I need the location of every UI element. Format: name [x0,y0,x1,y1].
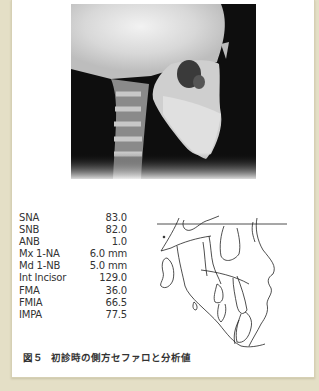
cephalometric-tracing [149,206,299,351]
measurement-label: FMIA [19,297,42,309]
measurement-label: SNA [19,212,39,224]
cephalometric-xray-image [71,4,256,179]
measurement-label: Mx 1-NA [19,248,60,260]
measurement-row-fmia: FMIA 66.5 [19,297,127,309]
measurement-value: 66.5 [106,297,127,309]
measurement-row-mx1-na: Mx 1-NA 6.0 mm [19,248,127,260]
measurement-row-fma: FMA 36.0 [19,285,127,297]
figure-caption: 図５初診時の側方セファロと分析値 [23,350,191,364]
measurement-value: 82.0 [106,224,127,236]
measurement-table: SNA 83.0 SNB 82.0 ANB 1.0 Mx 1-NA 6.0 mm… [19,212,127,321]
measurement-value: 5.0 mm [90,260,127,272]
measurement-row-impa: IMPA 77.5 [19,309,127,321]
measurement-label: Int Incisor [19,272,66,284]
measurement-label: IMPA [19,309,42,321]
figure-number: 図５ [23,352,43,363]
figure-caption-text: 初診時の側方セファロと分析値 [51,352,191,363]
measurement-label: FMA [19,285,40,297]
measurement-row-md1-nb: Md 1-NB 5.0 mm [19,260,127,272]
measurement-row-snb: SNB 82.0 [19,224,127,236]
measurement-value: 1.0 [112,236,127,248]
measurement-value: 83.0 [106,212,127,224]
measurement-value: 129.0 [99,272,127,284]
measurement-label: Md 1-NB [19,260,60,272]
measurement-value: 77.5 [106,309,127,321]
measurement-row-int-incisor: Int Incisor 129.0 [19,272,127,284]
measurement-label: SNB [19,224,39,236]
measurement-label: ANB [19,236,40,248]
measurement-value: 6.0 mm [90,248,127,260]
figure-card: SNA 83.0 SNB 82.0 ANB 1.0 Mx 1-NA 6.0 mm… [11,0,315,378]
measurement-row-anb: ANB 1.0 [19,236,127,248]
measurement-value: 36.0 [106,285,127,297]
measurement-row-sna: SNA 83.0 [19,212,127,224]
